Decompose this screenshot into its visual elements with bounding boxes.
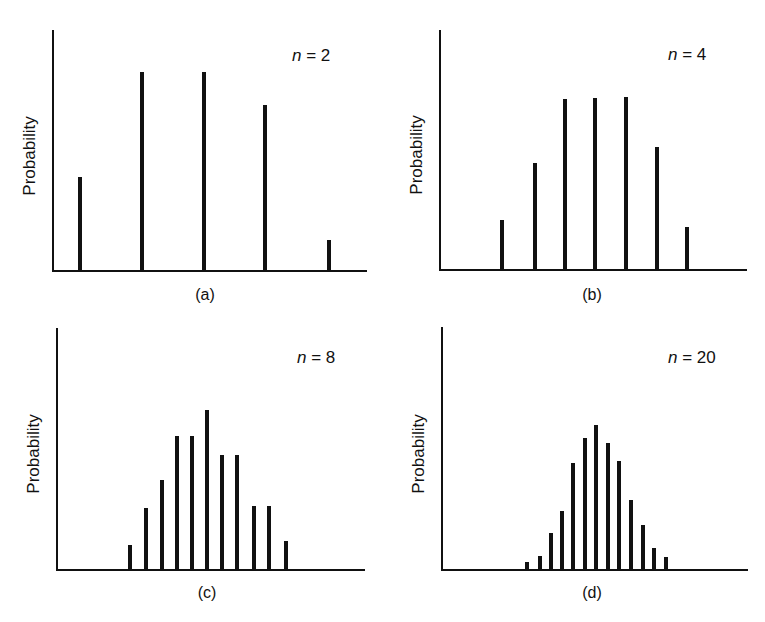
- panel-sublabel: (d): [572, 584, 612, 602]
- probability-bar: [202, 72, 206, 271]
- sample-size-label: n = 2: [292, 46, 330, 66]
- n-value: = 8: [306, 348, 335, 367]
- x-axis: [56, 569, 365, 571]
- n-value: = 2: [301, 46, 330, 65]
- probability-bar: [500, 220, 504, 270]
- probability-bar: [533, 163, 537, 270]
- probability-bar: [235, 455, 239, 570]
- panel-sublabel: (b): [572, 286, 612, 304]
- probability-bar: [267, 506, 271, 570]
- probability-bar: [549, 533, 553, 570]
- y-axis: [441, 327, 443, 571]
- probability-bar: [128, 545, 132, 570]
- probability-bar: [664, 557, 668, 570]
- probability-bar: [175, 436, 179, 570]
- probability-bar: [160, 480, 164, 570]
- probability-bar: [583, 438, 587, 570]
- y-axis-label: Probability: [20, 76, 40, 236]
- y-axis-label: Probability: [409, 374, 429, 534]
- y-axis: [56, 328, 58, 571]
- x-axis: [52, 270, 367, 272]
- probability-bar: [606, 443, 610, 570]
- y-axis-label: Probability: [407, 75, 427, 235]
- panel-sublabel: (a): [185, 286, 225, 304]
- probability-bar: [144, 508, 148, 570]
- panel-sublabel: (c): [187, 584, 227, 602]
- y-axis-label: Probability: [24, 374, 44, 534]
- probability-bar: [655, 147, 659, 270]
- probability-bar: [263, 105, 267, 271]
- probability-bar: [140, 72, 144, 271]
- y-axis: [439, 30, 441, 271]
- probability-bar: [525, 562, 529, 570]
- probability-bar: [327, 240, 331, 271]
- probability-bar: [685, 227, 689, 270]
- probability-bar: [563, 99, 567, 270]
- y-axis: [52, 30, 54, 272]
- probability-bar: [571, 463, 575, 570]
- sample-size-label: n = 8: [297, 348, 335, 368]
- n-value: = 20: [677, 348, 715, 367]
- probability-bar: [652, 548, 656, 570]
- probability-bar: [220, 455, 224, 570]
- probability-bar: [593, 98, 597, 270]
- probability-bar: [205, 410, 209, 570]
- probability-bar: [284, 541, 288, 570]
- probability-bar: [252, 506, 256, 570]
- probability-bar: [190, 436, 194, 570]
- sample-size-label: n = 20: [668, 348, 716, 368]
- probability-bar: [617, 461, 621, 570]
- probability-bar: [560, 511, 564, 570]
- probability-bar: [78, 177, 82, 271]
- sample-size-label: n = 4: [668, 45, 706, 65]
- n-value: = 4: [677, 45, 706, 64]
- probability-bar: [629, 500, 633, 570]
- probability-bar: [624, 97, 628, 270]
- probability-bar: [641, 525, 645, 570]
- probability-bar: [594, 425, 598, 570]
- probability-bar: [538, 556, 542, 570]
